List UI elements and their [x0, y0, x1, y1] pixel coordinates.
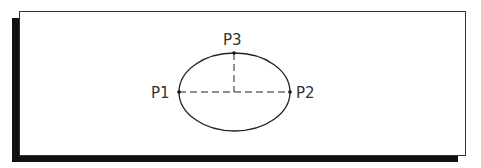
- label-p2: P2: [296, 84, 315, 102]
- point-p3-marker: [232, 51, 236, 55]
- point-p1-marker: [177, 90, 181, 94]
- ellipse-diagram: P1 P2 P3: [0, 0, 481, 168]
- point-p2-marker: [288, 90, 292, 94]
- label-p3: P3: [223, 31, 242, 49]
- label-p1: P1: [151, 84, 170, 102]
